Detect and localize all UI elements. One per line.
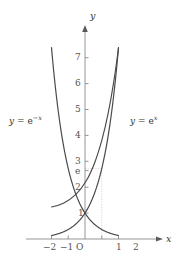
x-tick-label-1: 1 bbox=[116, 243, 122, 252]
origin-label: O bbox=[76, 243, 83, 252]
curve-label-right-lhs: y bbox=[130, 116, 135, 126]
curve-label-right-exponent: x bbox=[154, 114, 158, 122]
curve-label-left-eq: = bbox=[17, 116, 25, 126]
y-tick-label-e: e bbox=[75, 167, 80, 176]
exponential-functions-figure: 7 6 5 4 3 e 2 1 −2 −1 O 1 2 y x y = e−x … bbox=[0, 0, 181, 263]
plot-canvas bbox=[0, 0, 181, 263]
y-axis-arrowhead bbox=[82, 25, 88, 32]
y-tick-label-5: 5 bbox=[75, 105, 81, 114]
y-tick-label-3: 3 bbox=[75, 157, 81, 166]
curve-label-left-exponent: −x bbox=[33, 114, 42, 122]
curve-label-right: y = ex bbox=[130, 117, 157, 126]
y-tick-label-2: 2 bbox=[75, 183, 81, 192]
y-tick-label-6: 6 bbox=[75, 79, 81, 88]
x-tick-label-minus-2: −2 bbox=[43, 243, 56, 252]
y-axis-ticks bbox=[85, 58, 89, 213]
curve-label-left: y = e−x bbox=[9, 117, 42, 126]
x-axis-label: x bbox=[166, 234, 171, 244]
y-tick-label-7: 7 bbox=[75, 53, 81, 62]
curve-label-left-lhs: y bbox=[9, 116, 14, 126]
y-tick-label-4: 4 bbox=[75, 131, 81, 140]
x-axis-arrowhead bbox=[156, 236, 163, 241]
curve-label-right-eq: = bbox=[138, 116, 146, 126]
y-tick-label-1: 1 bbox=[78, 209, 84, 218]
x-tick-label-2: 2 bbox=[133, 243, 139, 252]
y-axis-label: y bbox=[90, 11, 95, 21]
x-tick-label-minus-1: −1 bbox=[60, 243, 73, 252]
